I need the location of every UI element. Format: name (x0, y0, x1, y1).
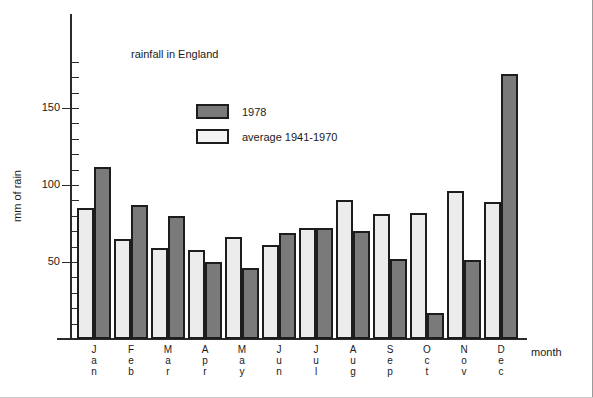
month-label-char: e (120, 355, 142, 366)
bar-1978-may (242, 268, 259, 339)
bar-1978-feb (131, 205, 148, 339)
month-label-char: o (453, 355, 475, 366)
month-label-char: J (305, 344, 327, 355)
month-label-char: y (231, 366, 253, 377)
month-label-char: J (83, 344, 105, 355)
month-label-char: r (157, 366, 179, 377)
month-label-char: N (453, 344, 475, 355)
month-label-char: l (305, 366, 327, 377)
month-label-char: p (379, 366, 401, 377)
bar-1978-nov (464, 260, 481, 339)
bar-1978-apr (205, 262, 222, 339)
month-label-char: u (342, 355, 364, 366)
month-label-jan: Jan (83, 344, 105, 377)
bar-1978-sep (390, 259, 407, 339)
plot-area: mm of rain rainfall in England 1978 aver… (0, 0, 593, 398)
month-label-feb: Feb (120, 344, 142, 377)
bar-average-dec (484, 202, 501, 339)
month-label-char: A (342, 344, 364, 355)
bar-average-feb (114, 239, 131, 339)
month-label-char: u (268, 355, 290, 366)
bar-average-may (225, 237, 242, 339)
month-label-char: A (194, 344, 216, 355)
month-label-char: a (157, 355, 179, 366)
bars-layer (0, 0, 593, 398)
month-label-char: c (490, 366, 512, 377)
bar-average-nov (447, 191, 464, 339)
month-label-apr: Apr (194, 344, 216, 377)
month-label-char: D (490, 344, 512, 355)
month-label-oct: Oct (416, 344, 438, 377)
month-label-char: M (157, 344, 179, 355)
month-label-sep: Sep (379, 344, 401, 377)
month-label-char: n (268, 366, 290, 377)
month-label-char: p (194, 355, 216, 366)
x-axis-title: month (531, 346, 562, 358)
month-label-jun: Jun (268, 344, 290, 377)
month-label-char: t (416, 366, 438, 377)
month-label-char: e (490, 355, 512, 366)
bar-1978-jun (279, 233, 296, 339)
month-label-jul: Jul (305, 344, 327, 377)
month-label-char: b (120, 366, 142, 377)
month-label-char: v (453, 366, 475, 377)
bar-1978-jul (316, 228, 333, 339)
month-label-char: r (194, 366, 216, 377)
bar-average-jul (299, 228, 316, 339)
month-label-dec: Dec (490, 344, 512, 377)
month-label-char: J (268, 344, 290, 355)
bar-1978-jan (94, 167, 111, 339)
chart-page: mm of rain rainfall in England 1978 aver… (0, 0, 593, 398)
bar-1978-aug (353, 231, 370, 339)
bar-1978-mar (168, 216, 185, 339)
month-label-aug: Aug (342, 344, 364, 377)
month-label-char: c (416, 355, 438, 366)
bar-average-apr (188, 250, 205, 339)
month-label-char: O (416, 344, 438, 355)
month-label-char: n (83, 366, 105, 377)
month-label-nov: Nov (453, 344, 475, 377)
bar-average-mar (151, 248, 168, 339)
month-label-char: a (83, 355, 105, 366)
bar-average-sep (373, 214, 390, 339)
month-label-char: F (120, 344, 142, 355)
month-label-mar: Mar (157, 344, 179, 377)
bar-average-jan (77, 208, 94, 339)
month-label-char: g (342, 366, 364, 377)
month-label-char: M (231, 344, 253, 355)
month-label-char: a (231, 355, 253, 366)
bar-average-aug (336, 200, 353, 339)
month-label-char: e (379, 355, 401, 366)
bar-1978-dec (501, 74, 518, 339)
month-label-char: S (379, 344, 401, 355)
bar-1978-oct (427, 313, 444, 339)
month-label-may: May (231, 344, 253, 377)
bar-average-jun (262, 245, 279, 339)
bar-average-oct (410, 213, 427, 339)
month-label-char: u (305, 355, 327, 366)
